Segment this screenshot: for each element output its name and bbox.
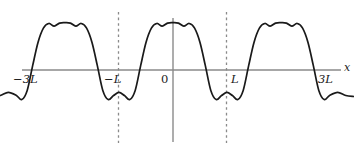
- tick-label-pos-l: L: [231, 74, 239, 86]
- tick-label-zero: 0: [161, 74, 168, 86]
- plot-canvas: [0, 0, 354, 146]
- tick-label-pos-three-l: 3L: [318, 74, 333, 86]
- wavefunction-curve: [0, 23, 354, 100]
- x-axis-label: x: [344, 62, 350, 73]
- function-plot-figure: −3L −L 0 L 3L x: [0, 0, 354, 146]
- tick-label-neg-l: −L: [104, 74, 121, 86]
- tick-label-neg-three-l: −3L: [13, 74, 38, 86]
